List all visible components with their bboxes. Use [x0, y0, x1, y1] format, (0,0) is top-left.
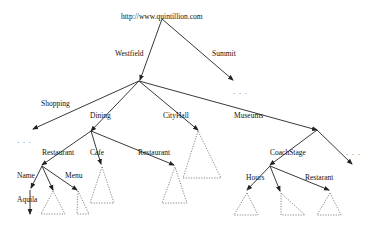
edge-label-restaurant-mid: Restaurant: [138, 148, 171, 157]
subtree-restarant: [317, 193, 341, 215]
edge-label-cafe: Cafe: [90, 148, 105, 157]
edge-label-cityhall: CityHall: [163, 111, 189, 120]
ellipsis-shopping: . . .: [17, 136, 32, 145]
subtree-unlabeled-left: [41, 191, 65, 214]
edge-museums-more: [317, 130, 352, 164]
subtree-cityhall: [183, 131, 221, 178]
edge-label-restarant: Restarant: [305, 173, 334, 182]
edge-label-hours: Hours: [246, 173, 264, 182]
edge-label-shopping: Shopping: [41, 99, 70, 108]
subtree-unlabeled-right: [281, 193, 305, 215]
edge-label-name: Name: [17, 171, 36, 180]
tree-diagram: http://www.quintillion.com Westfield Sum…: [0, 0, 369, 229]
edge-label-aquila: Aquila: [17, 195, 38, 204]
edge-cityhall: [139, 81, 198, 130]
subtree-restaurant-mid: [162, 167, 187, 203]
edge-label-restaurant-left: Restaurant: [42, 148, 75, 157]
ellipsis-museums: . . .: [346, 148, 361, 157]
edge-label-museums: Museums: [234, 111, 263, 120]
edge-dining: [91, 81, 139, 131]
edge-label-coachstage: CoachStage: [270, 148, 306, 157]
edge-museums: [139, 81, 317, 130]
subtree-hours: [234, 193, 258, 215]
subtree-menu: [77, 191, 89, 214]
edge-label-westfield: Westfield: [115, 49, 144, 58]
edge-label-dining: Dining: [90, 111, 111, 120]
ellipsis-summit: . . .: [233, 87, 248, 96]
edge-label-menu: Menu: [65, 171, 83, 180]
edge-label-summit: Summit: [212, 49, 237, 58]
subtree-cafe: [90, 167, 114, 203]
